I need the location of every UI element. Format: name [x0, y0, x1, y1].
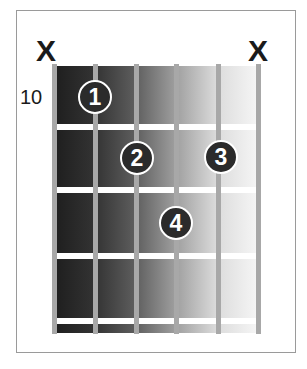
- finger-dot-2: 2: [121, 142, 153, 174]
- fret-line-3: [54, 253, 258, 259]
- fret-line-1: [54, 124, 258, 130]
- finger-number-3: 3: [215, 144, 228, 170]
- string-3: [174, 64, 179, 334]
- finger-dot-3: 3: [205, 141, 237, 173]
- fretboard: 1 2 3 4: [0, 0, 307, 369]
- string-2: [216, 64, 221, 334]
- fret-line-4: [54, 318, 258, 324]
- finger-dot-4: 4: [160, 207, 192, 239]
- finger-number-2: 2: [131, 145, 144, 171]
- string-6: [52, 64, 57, 334]
- finger-dot-1: 1: [79, 81, 111, 113]
- string-4: [134, 64, 139, 334]
- finger-number-4: 4: [170, 210, 183, 236]
- fret-line-2: [54, 187, 258, 193]
- finger-number-1: 1: [89, 84, 102, 110]
- string-1: [256, 64, 261, 334]
